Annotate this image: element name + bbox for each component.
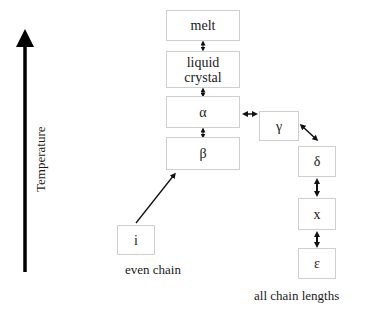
phase-label-gamma: γ [276, 119, 282, 134]
phase-box-melt: melt [166, 10, 240, 41]
phase-label-i: i [134, 233, 138, 248]
phase-box-epsilon: ε [298, 248, 336, 279]
phase-box-gamma: γ [259, 111, 299, 141]
phase-label-melt: melt [191, 18, 216, 33]
phase-box-i: i [117, 225, 155, 255]
arrow-i-beta [136, 175, 174, 223]
phase-label-delta: δ [314, 154, 321, 169]
phase-box-alpha: α [166, 96, 240, 128]
phase-label-x: x [314, 207, 321, 222]
phase-box-liquid-crystal: liquid crystal [166, 51, 240, 88]
caption-even-chain: even chain [125, 262, 181, 278]
phase-label-liquid-crystal: liquid crystal [184, 55, 221, 85]
phase-label-alpha: α [199, 105, 206, 120]
phase-box-x: x [298, 198, 336, 230]
caption-all-chain-lengths: all chain lengths [254, 288, 339, 304]
phase-label-epsilon: ε [314, 256, 320, 271]
temperature-axis-label: Temperature [33, 127, 49, 193]
phase-label-beta: β [199, 146, 206, 161]
phase-box-delta: δ [298, 146, 336, 177]
phase-box-beta: β [166, 137, 240, 170]
arrow-gamma-delta [302, 126, 316, 139]
